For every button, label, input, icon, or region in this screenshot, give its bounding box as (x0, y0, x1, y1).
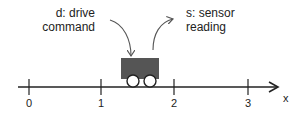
drive-command-label: d: drive command (42, 6, 95, 34)
cart-wheel-left (127, 75, 139, 87)
drive-command-line2: command (42, 20, 95, 34)
drive-command-arrow-icon (110, 20, 131, 56)
drive-command-line1: d: drive (42, 6, 95, 20)
axis-name-x: x (283, 92, 289, 104)
tick-label-0: 0 (26, 97, 32, 109)
sensor-reading-label: s: sensor reading (186, 6, 235, 34)
tick-label-3: 3 (245, 97, 251, 109)
cart (121, 58, 159, 87)
sensor-reading-line2: reading (186, 20, 235, 34)
robot-cart-diagram: d: drive command s: sensor reading 0 1 2… (0, 0, 303, 118)
tick-label-1: 1 (98, 97, 104, 109)
sensor-reading-line1: s: sensor (186, 6, 235, 20)
sensor-reading-arrow-icon (153, 19, 173, 50)
cart-wheel-right (144, 75, 156, 87)
tick-label-2: 2 (171, 97, 177, 109)
